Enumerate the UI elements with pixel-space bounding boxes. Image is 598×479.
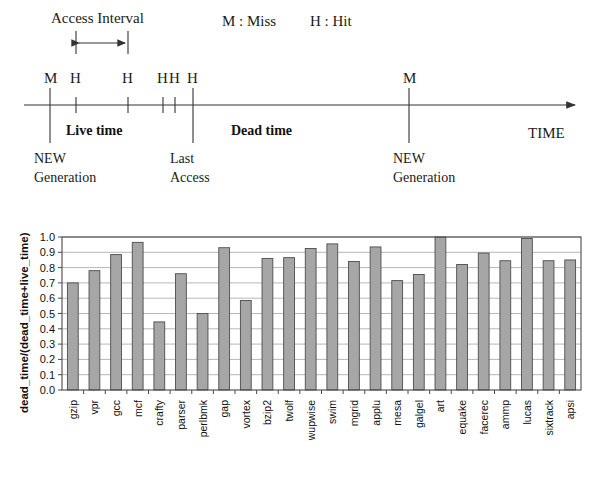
- bar: [392, 281, 403, 390]
- x-category-label: perlbmk: [197, 399, 209, 437]
- bar: [219, 248, 230, 390]
- y-tick-label: 0.0: [40, 384, 55, 396]
- bar: [435, 237, 446, 390]
- annotation-new-generation-1-line1: NEW: [34, 151, 67, 166]
- x-category-label: sixtrack: [543, 399, 555, 435]
- bar: [197, 314, 208, 391]
- x-category-label: vortex: [240, 399, 252, 428]
- bar: [543, 261, 554, 390]
- x-axis-tickmarks: [84, 390, 560, 394]
- y-tick-label: 0.2: [40, 353, 55, 365]
- legend-miss-label: M : Miss: [222, 13, 276, 29]
- live-time-label: Live time: [66, 123, 122, 138]
- bar: [500, 261, 511, 390]
- x-category-label: bzip2: [261, 400, 273, 425]
- bar: [478, 253, 489, 390]
- bar: [67, 283, 78, 390]
- event-letter-m-2: M: [403, 70, 416, 86]
- annotation-last-access-line1: Last: [170, 151, 194, 166]
- x-category-label: lucas: [521, 400, 533, 425]
- x-category-label: galgel: [413, 400, 425, 428]
- x-category-label: gzip: [67, 400, 79, 419]
- x-category-label: gap: [218, 400, 230, 418]
- x-category-label: parser: [175, 400, 187, 430]
- access-interval-label: Access Interval: [51, 10, 144, 26]
- annotation-new-generation-2-line1: NEW: [393, 151, 426, 166]
- x-category-label: mesa: [391, 400, 403, 426]
- event-letter-h-5: H: [187, 70, 198, 86]
- x-category-label: applu: [370, 400, 382, 426]
- dead-time-ratio-bar-chart: dead_time/(dead_time+live_time) 1.00.90.…: [0, 208, 598, 479]
- bar: [154, 322, 165, 390]
- event-letter-h-3: H: [157, 70, 168, 86]
- event-letter-h-4: H: [169, 70, 180, 86]
- bar: [176, 274, 187, 390]
- dead-time-label: Dead time: [231, 123, 292, 138]
- legend-hit-label: H : Hit: [310, 13, 353, 29]
- bar: [327, 244, 338, 390]
- timeline-diagram: Access Interval M : Miss H : Hit M H H H…: [0, 0, 598, 200]
- y-tick-label: 0.3: [40, 338, 55, 350]
- x-category-label: crafty: [153, 399, 165, 425]
- x-category-label: equake: [456, 400, 468, 435]
- x-category-label: ammp: [499, 400, 511, 429]
- event-letter-h-1: H: [70, 70, 81, 86]
- annotation-new-generation-2-line2: Generation: [393, 170, 455, 185]
- bar: [349, 261, 360, 390]
- bar: [413, 274, 424, 390]
- y-tick-label: 0.8: [40, 262, 55, 274]
- bar: [522, 239, 533, 390]
- event-letter-h-2: H: [122, 70, 133, 86]
- y-axis-title: dead_time/(dead_time+live_time): [18, 232, 30, 413]
- y-tick-label: 0.6: [40, 292, 55, 304]
- y-tick-label: 0.9: [40, 246, 55, 258]
- x-category-label: vpr: [88, 400, 100, 415]
- x-category-label: mgrid: [348, 400, 360, 426]
- x-category-label: mcf: [132, 400, 144, 417]
- bar: [89, 271, 100, 390]
- bar: [457, 265, 468, 390]
- x-category-label: gcc: [110, 400, 122, 416]
- x-category-label: apsi: [564, 400, 576, 419]
- y-tick-label: 1.0: [40, 231, 55, 243]
- y-tick-label: 0.7: [40, 277, 55, 289]
- bar: [111, 255, 122, 390]
- y-tick-label: 0.1: [40, 369, 55, 381]
- event-letter-m-1: M: [44, 70, 57, 86]
- bar: [262, 258, 273, 390]
- x-category-label: wupwise: [305, 400, 317, 441]
- bar: [240, 301, 251, 391]
- x-category-label: twolf: [283, 400, 295, 422]
- bar: [132, 242, 143, 390]
- x-category-label: art: [434, 400, 446, 412]
- bar: [305, 248, 316, 390]
- annotation-last-access-line2: Access: [170, 170, 210, 185]
- y-tick-label: 0.5: [40, 308, 55, 320]
- time-axis-label: TIME: [528, 125, 565, 141]
- bar: [565, 260, 576, 390]
- bar: [370, 247, 381, 390]
- y-axis-tick-labels: 1.00.90.80.70.60.50.40.30.20.10.0: [40, 231, 55, 396]
- x-category-label: facerec: [478, 400, 490, 434]
- y-tick-label: 0.4: [40, 323, 55, 335]
- annotation-new-generation-1-line2: Generation: [34, 170, 96, 185]
- x-axis-category-labels: gzipvprgccmcfcraftyparserperlbmkgapvorte…: [67, 399, 576, 441]
- x-category-label: swim: [326, 400, 338, 424]
- bar: [284, 258, 295, 390]
